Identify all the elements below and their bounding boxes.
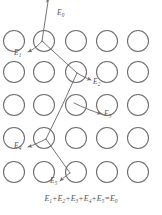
lattice-circle	[34, 95, 55, 116]
label-E3: E3	[104, 110, 111, 118]
conservation-equation: E1+E2+E3+E4+E5=E0	[0, 195, 162, 203]
lattice-circle	[66, 31, 87, 52]
lattice-circle	[4, 95, 25, 116]
path-segment-1	[42, 41, 77, 73]
label-E0: E0	[57, 9, 64, 17]
lattice-circle	[128, 128, 149, 149]
lattice-circle	[97, 31, 118, 52]
lattice-circle	[66, 95, 87, 116]
eq-term-2: E2	[58, 194, 66, 203]
lattice-circle	[34, 62, 55, 83]
scattering-diagram	[0, 0, 162, 215]
lattice-circle	[128, 31, 149, 52]
lattice-circle	[34, 128, 55, 149]
lattice-circle	[128, 62, 149, 83]
lattice-circle	[66, 128, 87, 149]
eq-term-1: E1	[44, 194, 52, 203]
eq-result: E0	[110, 194, 118, 203]
label-E2: E2	[93, 78, 100, 86]
lattice-circle	[128, 162, 149, 183]
lattice-circle	[4, 62, 25, 83]
figure-canvas: E0 E1 E2 E3 E4 E5 E1+E2+E3+E4+E5=E0	[0, 0, 162, 215]
incident-segment-E0	[42, 0, 49, 41]
lattice-circle	[97, 128, 118, 149]
path-segment-4	[46, 139, 70, 173]
label-E5: E5	[50, 177, 57, 185]
label-E1: E1	[14, 49, 21, 57]
path-segment-2	[62, 73, 77, 106]
label-E4: E4	[14, 142, 21, 150]
lattice-circle	[66, 162, 87, 183]
lattice-circle	[4, 162, 25, 183]
lattice-circle	[128, 95, 149, 116]
lattice-circles	[4, 31, 149, 183]
lattice-circle	[34, 31, 55, 52]
lattice-circle	[97, 162, 118, 183]
